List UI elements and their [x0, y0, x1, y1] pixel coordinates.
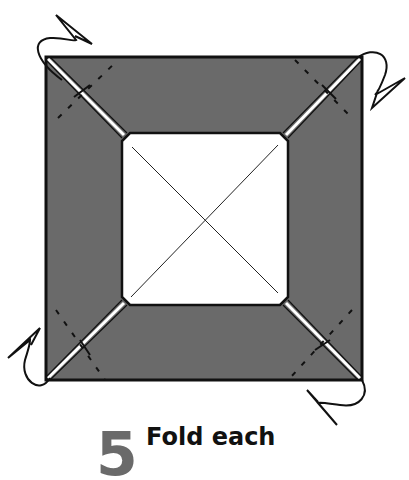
inner-white-square [122, 133, 288, 305]
arrow-top-right-icon [357, 52, 405, 108]
step-instruction-text: Fold each [146, 425, 275, 449]
step-number: 5 [96, 424, 138, 480]
arrow-bottom-left-icon [8, 328, 50, 385]
arrow-bottom-right-icon [307, 380, 365, 425]
